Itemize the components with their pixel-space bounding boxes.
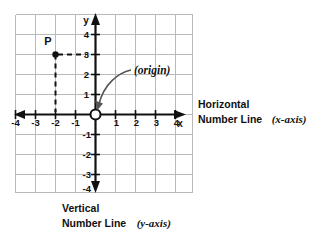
y-tick-label--4: -4 [83,183,92,194]
point-guide-lines [56,55,87,113]
y-tick-label-1: 1 [84,89,90,100]
origin-marker [91,110,101,120]
x-tick-label--1: -1 [71,117,80,128]
x-tick-label--3: -3 [31,117,39,128]
y-tick-label--1: -1 [83,129,92,140]
horizontal-annotation-line2-plain: Number Line [198,113,262,125]
x-tick-label--4: -4 [11,117,20,128]
horizontal-axis-annotation: Horizontal Number Line (x-axis) [198,98,306,126]
y-tick-label-2: 2 [84,69,89,80]
horizontal-annotation-line1: Horizontal [198,98,249,110]
x-axis-letter-label: x [177,118,183,129]
vertical-annotation-line1: Vertical [62,202,99,214]
origin-callout-arrow [95,70,131,111]
figure-page: -4 -3 -2 -1 1 2 3 4 4 3 2 1 -1 -2 -3 -4 … [0,0,326,240]
x-tick-label--2: -2 [51,117,59,128]
y-tick-label--3: -3 [83,169,91,180]
x-tick-label-2: 2 [134,117,139,128]
svg-text:Number Line (x-axis): Number Line (x-axis) [198,109,306,126]
svg-text:Number Line (y-axis): Number Line (y-axis) [62,213,171,230]
vertical-annotation-line2-em: (y-axis) [137,217,171,230]
point-p-label: P [44,35,51,47]
y-axis-letter-label: y [83,15,89,26]
point-p-marker [52,51,58,57]
x-tick-label-1: 1 [114,117,120,128]
vertical-annotation-line2-plain: Number Line [62,217,126,229]
y-axis-bottom-arrowhead [91,181,100,193]
vertical-axis-annotation: Vertical Number Line (y-axis) [62,202,171,230]
origin-callout-label: (origin) [134,64,171,77]
grid-lines [16,15,193,193]
coordinate-plane-figure: -4 -3 -2 -1 1 2 3 4 4 3 2 1 -1 -2 -3 -4 … [0,0,326,240]
y-tick-label--2: -2 [83,149,91,160]
x-tick-label-3: 3 [154,117,159,128]
y-tick-label-3: 3 [84,49,89,60]
y-tick-label-4: 4 [84,29,90,40]
horizontal-annotation-line2-em: (x-axis) [272,113,307,126]
